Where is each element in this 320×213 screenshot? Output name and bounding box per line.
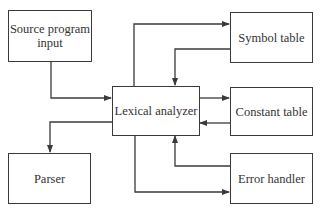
node-label: Source program input xyxy=(9,22,91,50)
node-error-handler: Error handler xyxy=(230,153,313,204)
arrow-lexical-to-parser xyxy=(50,122,112,152)
node-constant-table: Constant table xyxy=(230,87,313,136)
node-parser: Parser xyxy=(8,153,91,204)
lexical-analyzer-diagram: Source program input Symbol table Lexica… xyxy=(0,0,320,213)
arrow-lexical-to-error xyxy=(135,135,229,192)
node-label: Symbol table xyxy=(238,31,304,45)
arrow-error-to-lexical xyxy=(175,136,230,166)
node-symbol-table: Symbol table xyxy=(230,12,313,63)
node-lexical-analyzer: Lexical analyzer xyxy=(112,86,200,136)
node-label: Lexical analyzer xyxy=(115,104,198,118)
arrow-symbol-to-lexical xyxy=(175,49,230,85)
arrow-source-to-lexical xyxy=(51,61,111,98)
node-source-program-input: Source program input xyxy=(8,10,92,62)
arrow-lexical-to-symbol xyxy=(134,24,229,86)
node-label: Constant table xyxy=(236,105,308,119)
node-label: Parser xyxy=(34,172,65,186)
node-label: Error handler xyxy=(238,172,305,186)
